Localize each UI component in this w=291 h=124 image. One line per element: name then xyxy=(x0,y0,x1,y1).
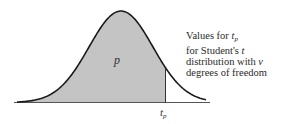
caption-line-3: distribution with ν xyxy=(186,56,267,67)
caption-var-p: p xyxy=(234,35,238,43)
caption-line-4: degrees of freedom xyxy=(186,67,267,78)
shaded-area-p xyxy=(17,11,166,103)
caption-text: for Student's xyxy=(186,45,242,56)
caption-var-nu: ν xyxy=(258,56,263,67)
shaded-area-label: p xyxy=(114,53,120,68)
figure-caption: Values for tp for Student's t distributi… xyxy=(186,30,267,78)
caption-text: Values for xyxy=(186,30,232,41)
caption-line-2: for Student's t xyxy=(186,45,267,56)
caption-text: distribution with xyxy=(186,56,258,67)
caption-line-1: Values for tp xyxy=(186,30,267,45)
critical-value-label: tp xyxy=(160,106,167,120)
tp-subscript: p xyxy=(163,112,167,120)
caption-var-t: t xyxy=(242,45,245,56)
